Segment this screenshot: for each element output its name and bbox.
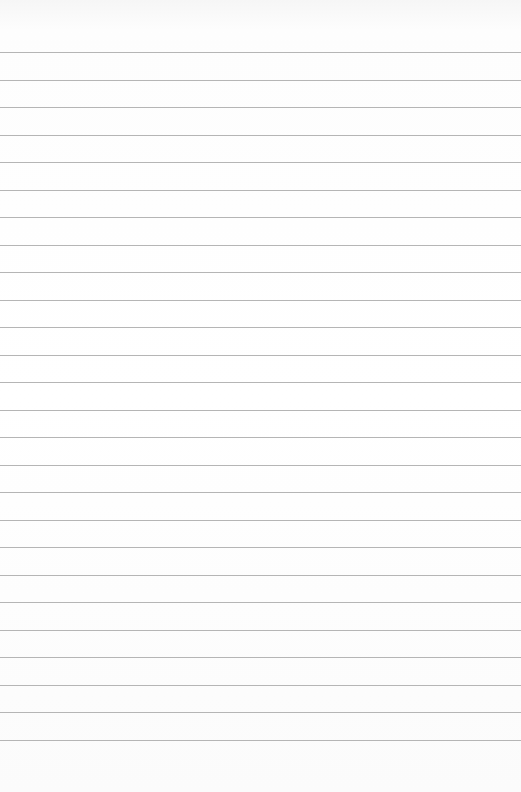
ruled-line [0, 437, 521, 438]
ruled-line [0, 740, 521, 741]
ruled-line [0, 382, 521, 383]
ruled-line [0, 190, 521, 191]
ruled-line [0, 685, 521, 686]
ruled-line [0, 52, 521, 53]
ruled-line [0, 272, 521, 273]
ruled-line [0, 602, 521, 603]
ruled-line [0, 712, 521, 713]
ruled-line [0, 547, 521, 548]
ruled-line [0, 80, 521, 81]
ruled-line [0, 107, 521, 108]
ruled-line [0, 217, 521, 218]
ruled-line [0, 355, 521, 356]
ruled-line [0, 492, 521, 493]
ruled-line [0, 135, 521, 136]
ruled-line [0, 657, 521, 658]
ruled-line [0, 575, 521, 576]
ruled-line [0, 410, 521, 411]
ruled-line [0, 465, 521, 466]
ruled-line [0, 162, 521, 163]
ruled-line [0, 327, 521, 328]
ruled-line [0, 300, 521, 301]
lined-paper [0, 0, 521, 792]
ruled-line [0, 245, 521, 246]
ruled-line [0, 520, 521, 521]
ruled-line [0, 630, 521, 631]
